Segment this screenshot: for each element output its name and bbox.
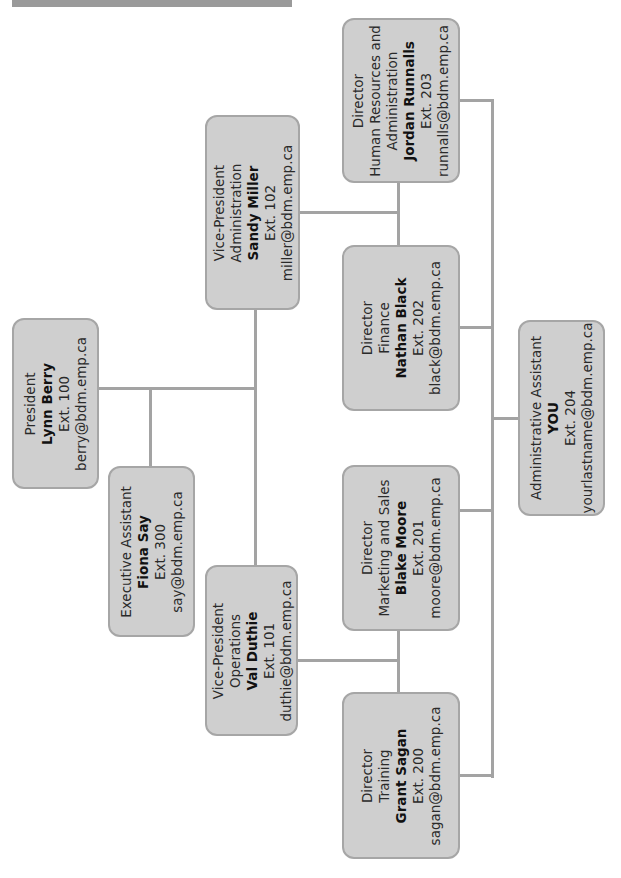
node-dept: Finance (376, 261, 393, 395)
node-email: duthie@bdm.emp.ca (277, 580, 294, 721)
node-dept: Human Resources and (367, 24, 384, 176)
connector-vp-admin (298, 211, 400, 214)
node-dept: Administration (227, 144, 244, 280)
node-ext: Ext. 204 (562, 322, 579, 513)
node-title: Vice-President (210, 144, 227, 280)
node-admin-assistant: Administrative Assistant YOU Ext. 204 yo… (518, 320, 605, 516)
node-ext: Ext. 300 (152, 486, 169, 618)
connector-hr (459, 99, 494, 102)
node-name: Sandy Miller (244, 144, 261, 280)
node-dept: Marketing and Sales (376, 477, 393, 618)
node-email: berry@bdm.emp.ca (73, 337, 90, 471)
node-ext: Ext. 101 (260, 580, 277, 721)
node-dept: Training (376, 706, 393, 845)
node-dept: Operations (226, 580, 243, 721)
node-name: Jordan Runnalls (401, 24, 418, 176)
node-title: Vice-President (209, 580, 226, 721)
node-ext: Ext. 100 (56, 337, 73, 471)
node-email: miller@bdm.emp.ca (278, 144, 295, 280)
node-name: Lynn Berry (39, 337, 56, 471)
node-email: sagan@bdm.emp.ca (427, 706, 444, 845)
node-title: Director (359, 261, 376, 395)
node-title: Director (359, 706, 376, 845)
header-bar (12, 0, 292, 7)
connector-right-spine (491, 99, 494, 778)
connector-exec-assistant (149, 387, 152, 467)
node-ext: Ext. 102 (261, 144, 278, 280)
node-email: say@bdm.emp.ca (169, 486, 186, 618)
node-ext: Ext. 202 (410, 261, 427, 395)
connector-vp-ops-directors (397, 628, 400, 694)
connector-vp-admin-directors (397, 180, 400, 247)
node-vp-operations: Vice-President Operations Val Duthie Ext… (205, 565, 298, 736)
node-dir-training: Director Training Grant Sagan Ext. 200 s… (342, 692, 460, 859)
connector-finance (459, 326, 494, 329)
node-title: Director (359, 477, 376, 618)
node-name: Nathan Black (393, 261, 410, 395)
node-vp-admin: Vice-President Administration Sandy Mill… (205, 115, 300, 310)
connector-admin-assistant (491, 417, 520, 420)
node-ext: Ext. 200 (410, 706, 427, 845)
node-name: YOU (545, 322, 562, 513)
node-dept-2: Administration (384, 24, 401, 176)
connector-vp-spine (254, 308, 257, 567)
node-name: Blake Moore (393, 477, 410, 618)
node-president: President Lynn Berry Ext. 100 berry@bdm.… (12, 318, 99, 489)
connector-vp-ops (296, 659, 400, 662)
node-title: Executive Assistant (118, 486, 135, 618)
node-exec-assistant: Executive Assistant Fiona Say Ext. 300 s… (108, 466, 195, 637)
connector-training (459, 774, 494, 777)
node-dir-finance: Director Finance Nathan Black Ext. 202 b… (342, 245, 460, 411)
node-name: Val Duthie (243, 580, 260, 721)
node-title: Administrative Assistant (528, 322, 545, 513)
node-dir-hr: Director Human Resources and Administrat… (342, 18, 460, 183)
node-email: yourlastname@bdm.emp.ca (579, 322, 596, 513)
node-name: Grant Sagan (393, 706, 410, 845)
connector-marketing (459, 509, 494, 512)
node-email: runnalls@bdm.emp.ca (435, 24, 452, 176)
node-ext: Ext. 201 (410, 477, 427, 618)
node-ext: Ext. 203 (418, 24, 435, 176)
node-dir-marketing: Director Marketing and Sales Blake Moore… (342, 465, 460, 631)
node-email: black@bdm.emp.ca (427, 261, 444, 395)
connector-president-trunk (98, 387, 257, 390)
node-title: President (22, 337, 39, 471)
node-email: moore@bdm.emp.ca (427, 477, 444, 618)
node-title: Director (350, 24, 367, 176)
node-name: Fiona Say (135, 486, 152, 618)
